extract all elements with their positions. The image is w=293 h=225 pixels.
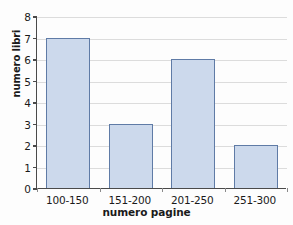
y-axis-tick-mark	[33, 145, 37, 146]
y-axis-tick-mark	[33, 16, 37, 17]
bar	[234, 145, 278, 188]
bar	[46, 38, 90, 189]
y-axis-tick-label: 1	[24, 162, 31, 173]
y-axis-tick-mark	[33, 167, 37, 168]
x-axis-tick-label: 201-250	[161, 194, 224, 206]
y-axis-tick-label: 4	[24, 98, 31, 109]
y-axis-tick-label: 3	[24, 119, 31, 130]
bar	[171, 59, 215, 188]
y-axis-tick-label: 7	[24, 33, 31, 44]
y-axis-tick-label: 8	[24, 12, 31, 23]
bar-chart-figure: numero libri 012345678 100-150151-200201…	[0, 0, 293, 225]
x-axis-tick-label: 251-300	[224, 194, 287, 206]
x-axis-tick-mark	[100, 188, 101, 192]
gridline	[37, 17, 287, 18]
y-axis-title: numero libri	[11, 4, 22, 124]
bar	[109, 124, 153, 189]
y-axis-tick-mark	[33, 124, 37, 125]
x-axis-tick-label: 100-150	[36, 194, 99, 206]
y-axis-tick-mark	[33, 102, 37, 103]
x-axis-title: numero pagine	[0, 206, 293, 218]
y-axis-tick-label: 5	[24, 76, 31, 87]
x-axis-tick-mark	[225, 188, 226, 192]
y-axis-tick-mark	[33, 59, 37, 60]
y-axis-tick-mark	[33, 81, 37, 82]
x-axis-tick-label: 151-200	[99, 194, 162, 206]
y-axis-tick-mark	[33, 38, 37, 39]
x-axis-tick-mark	[162, 188, 163, 192]
plot-area: 012345678	[36, 17, 286, 189]
y-axis-tick-label: 0	[24, 184, 31, 195]
x-axis-tick-mark	[287, 188, 288, 192]
y-axis-tick-label: 6	[24, 55, 31, 66]
y-axis-tick-label: 2	[24, 141, 31, 152]
x-axis-tick-mark	[37, 188, 38, 192]
